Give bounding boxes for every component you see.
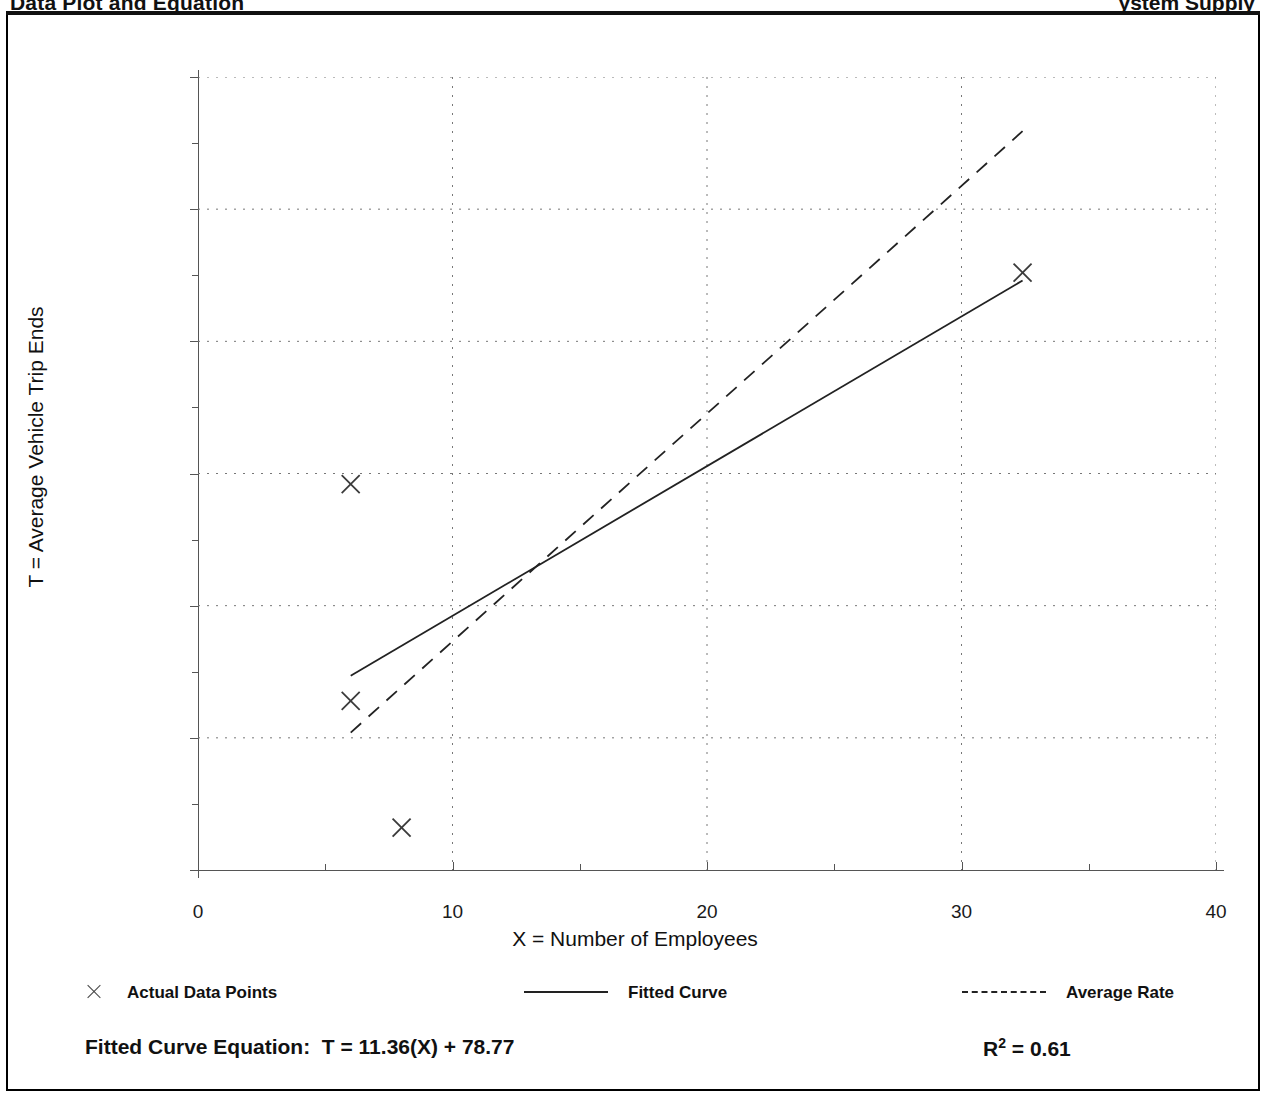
- x-axis-tick-label: 20: [677, 901, 737, 923]
- x-axis-tick-label: 30: [932, 901, 992, 923]
- legend-item-fitted-curve: Fitted Curve: [524, 975, 824, 1015]
- fitted-curve-equation-value: T = 11.36(X) + 78.77: [322, 1035, 515, 1058]
- equation-row: Fitted Curve Equation: T = 11.36(X) + 78…: [8, 1035, 1262, 1081]
- x-axis-title: X = Number of Employees: [8, 927, 1262, 951]
- x-axis-tick-label: 10: [423, 901, 483, 923]
- data-point: [1014, 264, 1032, 282]
- fitted-curve-equation-label: Fitted Curve Equation:: [85, 1035, 310, 1058]
- series-line-average-rate: [351, 131, 1023, 732]
- legend-item-average-rate: Average Rate: [962, 975, 1262, 1015]
- legend-item-actual-data-points: Actual Data Points: [85, 975, 385, 1015]
- x-axis-major-tick: [1216, 862, 1217, 871]
- fitted-curve-equation: Fitted Curve Equation: T = 11.36(X) + 78…: [85, 1035, 514, 1059]
- data-point: [342, 692, 360, 710]
- figure-frame: T = Average Vehicle Trip Ends 6005004003…: [6, 13, 1260, 1091]
- r-squared-number: = 0.61: [1012, 1037, 1071, 1060]
- data-point: [393, 819, 411, 837]
- r-squared-exponent: 2: [998, 1035, 1006, 1051]
- x-axis-tick-label: 40: [1186, 901, 1246, 923]
- solid-line-icon: [524, 991, 608, 993]
- chart-legend: Actual Data Points Fitted Curve Average …: [8, 975, 1262, 1021]
- dashed-line-icon: [962, 991, 1046, 993]
- r-squared-symbol: R: [983, 1037, 998, 1060]
- legend-label: Fitted Curve: [628, 983, 727, 1003]
- x-marker-icon: [85, 983, 103, 1001]
- plot-svg: [198, 77, 1216, 870]
- series-line-fitted-curve: [351, 281, 1023, 676]
- plot-area: [198, 77, 1216, 870]
- data-point: [342, 475, 360, 493]
- r-squared-value: R2 = 0.61: [983, 1035, 1071, 1061]
- legend-label: Actual Data Points: [127, 983, 277, 1003]
- legend-label: Average Rate: [1066, 983, 1174, 1003]
- x-axis-tick-label: 0: [168, 901, 228, 923]
